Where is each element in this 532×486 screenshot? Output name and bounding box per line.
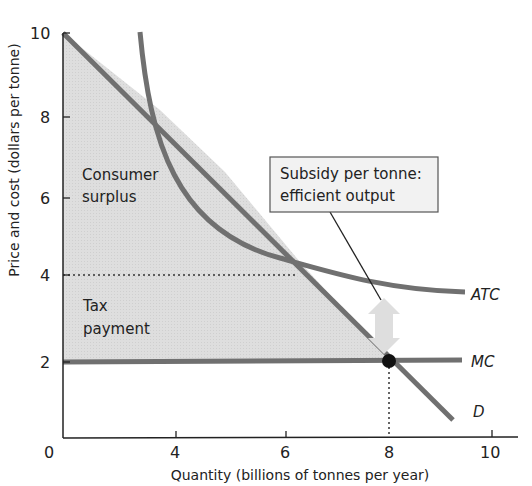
x-tick-4: 4 [170, 443, 180, 462]
y-tick-6: 6 [40, 189, 50, 208]
tax-payment-label-1: Tax [82, 297, 108, 315]
x-axis [63, 437, 518, 438]
callout-leader [330, 212, 381, 300]
demand-label: D [473, 403, 485, 421]
mc-curve [63, 360, 462, 362]
x-tick-8: 8 [384, 443, 394, 462]
x-tick-0: 0 [44, 443, 54, 462]
y-tick-2: 2 [40, 353, 50, 372]
callout-text-1: Subsidy per tonne: [280, 165, 422, 183]
efficient-point-marker [382, 354, 396, 368]
tax-payment-label-2: payment [83, 320, 150, 338]
y-axis-title: Price and cost (dollars per tonne) [6, 43, 22, 276]
x-tick-10: 10 [480, 443, 500, 462]
y-tick-10: 10 [30, 24, 50, 43]
callout-text-2: efficient output [280, 187, 395, 205]
consumer-surplus-label-1: Consumer [82, 166, 159, 184]
chart: 10 8 6 4 2 0 4 6 8 10 Quantity (billions… [0, 0, 532, 486]
x-axis-title: Quantity (billions of tonnes per year) [171, 467, 430, 483]
x-tick-6: 6 [280, 443, 290, 462]
y-tick-8: 8 [40, 108, 50, 127]
atc-label: ATC [470, 286, 500, 304]
y-tick-4: 4 [40, 266, 50, 285]
mc-label: MC [471, 353, 495, 371]
consumer-surplus-label-2: surplus [82, 188, 137, 206]
